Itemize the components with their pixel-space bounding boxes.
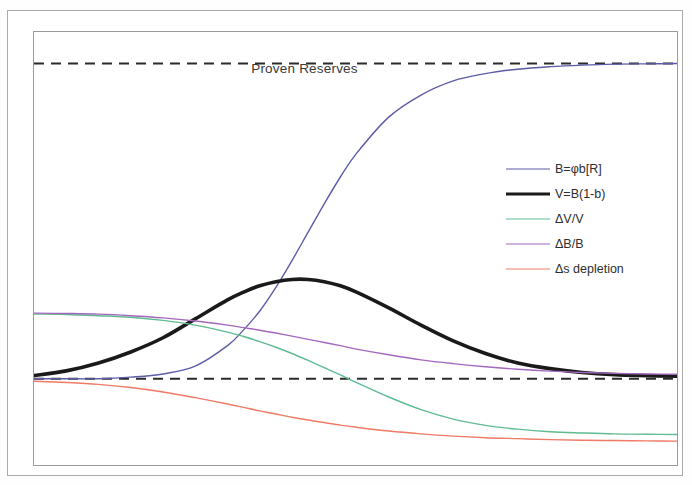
series-curve bbox=[34, 314, 678, 434]
legend-label: V=B(1-b) bbox=[555, 187, 605, 201]
legend-item[interactable]: ΔV/V bbox=[506, 206, 676, 231]
legend-label: ΔB/B bbox=[555, 237, 584, 251]
series-curve bbox=[34, 313, 678, 374]
legend-line-3 bbox=[506, 243, 550, 244]
legend-line-1 bbox=[506, 192, 550, 195]
legend-swatch-line-icon bbox=[506, 263, 550, 275]
legend-swatch-line-icon bbox=[506, 163, 550, 175]
legend-swatch-line-icon bbox=[506, 188, 550, 200]
legend: B=φb[R] V=B(1-b) ΔV/V ΔB/B Δs depletion bbox=[506, 156, 676, 281]
legend-item[interactable]: Δs depletion bbox=[506, 256, 676, 281]
figure-root: Proven Reserves B=φb[R] V=B(1-b) ΔV/V ΔB… bbox=[0, 0, 692, 485]
plot-area: Proven Reserves B=φb[R] V=B(1-b) ΔV/V ΔB… bbox=[33, 31, 678, 466]
legend-line-4 bbox=[506, 268, 550, 269]
legend-item[interactable]: B=φb[R] bbox=[506, 156, 676, 181]
legend-label: ΔV/V bbox=[555, 212, 584, 226]
legend-line-0 bbox=[506, 168, 550, 169]
legend-line-2 bbox=[506, 218, 550, 219]
legend-label: B=φb[R] bbox=[555, 162, 602, 176]
legend-item[interactable]: V=B(1-b) bbox=[506, 181, 676, 206]
series-curve bbox=[34, 279, 678, 376]
legend-label: Δs depletion bbox=[555, 262, 624, 276]
legend-item[interactable]: ΔB/B bbox=[506, 231, 676, 256]
series-curve bbox=[34, 381, 678, 441]
legend-swatch-line-icon bbox=[506, 213, 550, 225]
legend-swatch-line-icon bbox=[506, 238, 550, 250]
